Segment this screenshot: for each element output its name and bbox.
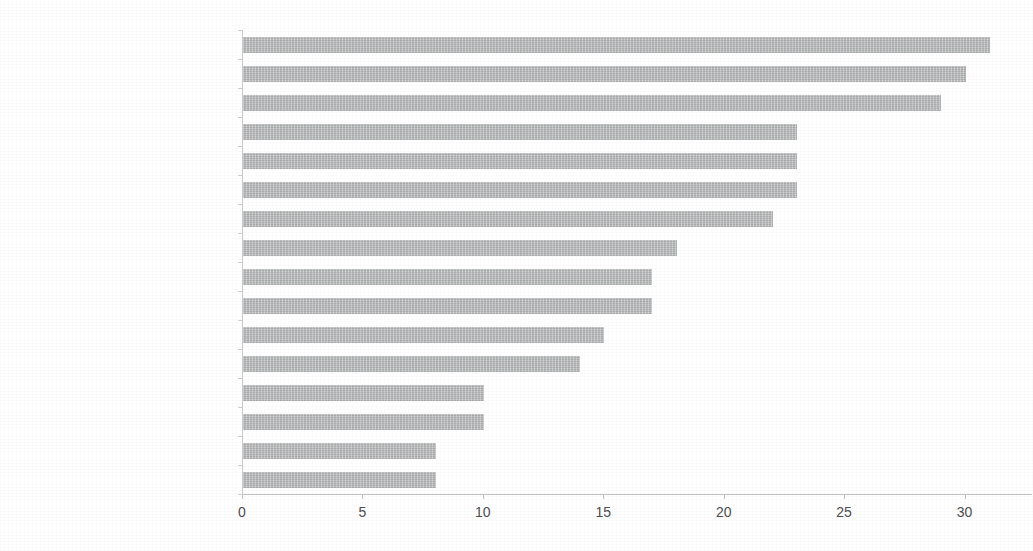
x-axis-tick: [603, 494, 604, 499]
bar: [243, 269, 652, 285]
chart-row: Brennamann/Nuxhall CIN 74-04: [242, 30, 1032, 59]
value-axis-line: [242, 494, 1032, 495]
chart-row: Buck/Shannon SLN 72-75, 77-01: [242, 88, 1032, 117]
x-axis-tick: [362, 494, 363, 499]
bar: [243, 182, 797, 198]
category-tick: [238, 262, 242, 263]
bar: [243, 385, 484, 401]
x-axis-tick-label: 0: [238, 503, 246, 521]
category-tick: [238, 465, 242, 466]
bar: [243, 95, 941, 111]
chart-row: Scully/Doggett LAN 58-87: [242, 59, 1032, 88]
category-tick: [238, 436, 242, 437]
category-tick: [238, 291, 242, 292]
plot-area: Brennamann/Nuxhall CIN 74-04Scully/Dogge…: [242, 30, 1032, 494]
category-tick: [238, 204, 242, 205]
bar: [243, 443, 436, 459]
bar: [243, 414, 484, 430]
chart-row: Van Horne/Snider MON 77-86: [242, 378, 1032, 407]
category-tick: [238, 378, 242, 379]
category-tick: [238, 117, 242, 118]
bar: [243, 37, 990, 53]
category-tick: [238, 349, 242, 350]
category-tick: [238, 407, 242, 408]
x-axis-tick: [844, 494, 845, 499]
bar: [243, 327, 604, 343]
bar: [243, 211, 773, 227]
bar-chart-figure: Brennamann/Nuxhall CIN 74-04Scully/Dogge…: [0, 0, 1033, 551]
bar: [243, 472, 436, 488]
bar: [243, 356, 580, 372]
bar: [243, 240, 677, 256]
category-tick: [238, 320, 242, 321]
bar: [243, 124, 797, 140]
x-axis-tick-label: 30: [957, 503, 973, 521]
category-tick: [238, 233, 242, 234]
chart-row: Caray/Sutton ATL 90-06: [242, 291, 1032, 320]
category-tick: [238, 59, 242, 60]
x-axis-tick-label: 15: [595, 503, 611, 521]
x-axis-tick-label: 5: [359, 503, 367, 521]
x-axis-tick-label: 25: [836, 503, 852, 521]
x-axis-tick: [965, 494, 966, 499]
chart-row: Hagin/Kingery COL 93-02: [242, 407, 1032, 436]
chart-row: Hodges/Simmons SFN 58-70: [242, 117, 1032, 146]
x-axis-tick: [724, 494, 725, 499]
bar: [243, 66, 966, 82]
bar: [243, 153, 797, 169]
category-tick: [238, 30, 242, 31]
category-tick: [238, 146, 242, 147]
chart-row: Schulte/Candiotti ARI 06-14: [242, 465, 1032, 494]
bar: [243, 298, 652, 314]
chart-row: Uecker/Powell MIL 96-08: [242, 175, 1032, 204]
x-axis-tick: [242, 494, 243, 499]
chart-row: Chandler/Coleman SDN 72-77, 84-00: [242, 146, 1032, 175]
chart-row: Kalas/Ashburn PHI 76-97: [242, 204, 1032, 233]
category-tick: [238, 175, 242, 176]
chart-row: Nelson/Murphy/Kiner NYN 62-78: [242, 262, 1032, 291]
x-axis-tick: [483, 494, 484, 499]
chart-row: Frattare/Blass PIT 94-08: [242, 320, 1032, 349]
chart-row: Lloyd/Boudreau CHN 65-82: [242, 233, 1032, 262]
chart-row: Elston/Passe HOU 62-75: [242, 349, 1032, 378]
category-tick: [238, 88, 242, 89]
chart-row: Angel/O'Brien FLO 93-00: [242, 436, 1032, 465]
x-axis-tick-label: 20: [716, 503, 732, 521]
x-axis-tick-label: 10: [475, 503, 491, 521]
